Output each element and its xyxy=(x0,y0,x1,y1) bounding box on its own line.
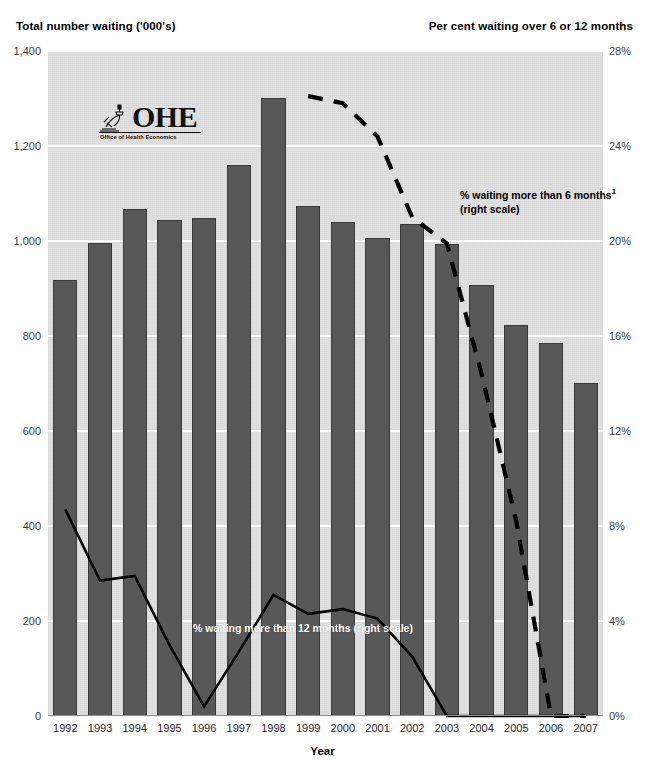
x-axis-title: Year xyxy=(0,745,645,757)
y-axis-left-tick-label: 200 xyxy=(23,615,41,627)
ohe-wordmark: OHE xyxy=(132,102,197,132)
y-axis-left-tick-label: 600 xyxy=(23,425,41,437)
right-axis-title: Per cent waiting over 6 or 12 months xyxy=(429,20,633,32)
x-axis-tick-label: 1993 xyxy=(88,722,112,734)
left-axis-title: Total number waiting ('000's) xyxy=(16,20,176,32)
y-axis-left-tick-label: 0 xyxy=(35,710,41,722)
x-axis-tick-label: 2003 xyxy=(435,722,459,734)
x-axis-tick-label: 2006 xyxy=(539,722,563,734)
y-axis-left-tick-label: 800 xyxy=(23,330,41,342)
y-axis-left-tick-label: 1,400 xyxy=(13,45,41,57)
x-axis-tick-label: 1997 xyxy=(227,722,251,734)
axis-baseline xyxy=(48,715,603,716)
x-axis-tick-label: 2002 xyxy=(400,722,424,734)
annotation-six-month-line1: % waiting more than 6 months xyxy=(460,189,612,201)
y-axis-left-tick-label: 1,000 xyxy=(13,235,41,247)
y-axis-right-tick-label: 12% xyxy=(609,425,631,437)
x-axis-tick-label: 2005 xyxy=(504,722,528,734)
x-axis-tick-label: 1992 xyxy=(53,722,77,734)
x-axis-tick-label: 1995 xyxy=(157,722,181,734)
twelve-month-line xyxy=(65,509,585,716)
y-axis-right-tick-label: 20% xyxy=(609,235,631,247)
y-axis-left-tick-label: 1,200 xyxy=(13,140,41,152)
y-axis-right-tick-label: 8% xyxy=(609,520,625,532)
x-axis-tick-label: 2001 xyxy=(365,722,389,734)
annotation-six-month-line2: (right scale) xyxy=(460,203,520,215)
x-axis-tick-label: 1999 xyxy=(296,722,320,734)
logo-divider xyxy=(99,132,201,133)
x-axis-tick-label: 2004 xyxy=(469,722,493,734)
line-series-group xyxy=(48,51,603,716)
y-axis-left-tick-label: 400 xyxy=(23,520,41,532)
x-axis-tick-label: 2007 xyxy=(573,722,597,734)
y-axis-right-tick-label: 0% xyxy=(609,710,625,722)
annotation-six-month-footnote: 1 xyxy=(612,187,616,196)
y-axis-right-tick-label: 28% xyxy=(609,45,631,57)
annotation-twelve-month: % waiting more than 12 months (right sca… xyxy=(193,622,413,634)
microscope-icon xyxy=(98,103,132,133)
x-axis-tick-label: 1994 xyxy=(122,722,146,734)
x-axis-tick-label: 1996 xyxy=(192,722,216,734)
annotation-six-month: % waiting more than 6 months1 (right sca… xyxy=(460,185,616,216)
chart-plot-area: OHE Office of Health Economics % waiting… xyxy=(48,51,603,716)
y-axis-right-tick-label: 24% xyxy=(609,140,631,152)
ohe-logo: OHE Office of Health Economics xyxy=(98,103,202,145)
y-axis-right-tick-label: 4% xyxy=(609,615,625,627)
ohe-subtitle: Office of Health Economics xyxy=(100,134,177,140)
x-axis-tick-label: 2000 xyxy=(331,722,355,734)
y-axis-right-tick-label: 16% xyxy=(609,330,631,342)
x-axis-tick-label: 1998 xyxy=(261,722,285,734)
